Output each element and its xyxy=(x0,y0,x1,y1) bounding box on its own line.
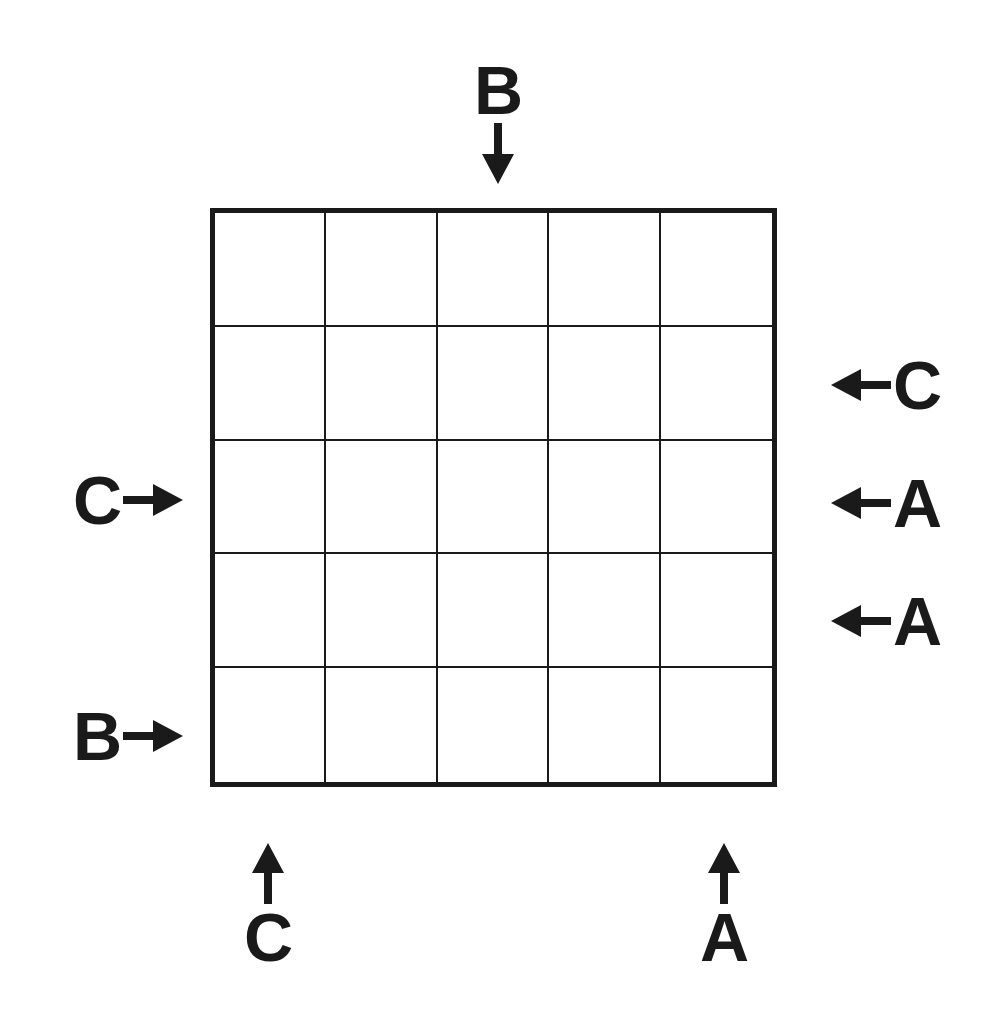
grid-cell[interactable] xyxy=(549,668,660,782)
grid-cell[interactable] xyxy=(215,554,326,668)
grid-cell[interactable] xyxy=(438,327,549,441)
clue-left-row-5: B xyxy=(48,694,208,778)
clue-letter: C xyxy=(73,469,121,532)
clue-letter: C xyxy=(244,906,292,969)
grid-cell[interactable] xyxy=(661,441,772,555)
grid-cell[interactable] xyxy=(661,327,772,441)
clue-bottom-column-1: C xyxy=(222,830,314,980)
arrow-left-icon xyxy=(831,480,891,526)
grid-cell[interactable] xyxy=(326,554,437,668)
grid-cell[interactable] xyxy=(326,213,437,327)
arrow-right-icon xyxy=(123,713,183,759)
arrow-up-icon xyxy=(701,842,747,904)
arrow-down-icon xyxy=(475,123,521,185)
clue-bottom-column-5: A xyxy=(678,830,770,980)
clue-letter: B xyxy=(73,705,121,768)
clue-right-row-3: A xyxy=(806,461,966,545)
clue-right-row-2: C xyxy=(806,343,966,427)
grid-cell[interactable] xyxy=(549,554,660,668)
grid-cell[interactable] xyxy=(215,668,326,782)
clue-right-row-4: A xyxy=(806,579,966,663)
grid-cell[interactable] xyxy=(438,441,549,555)
clue-top-column-3: B xyxy=(452,42,544,202)
grid-cell[interactable] xyxy=(549,327,660,441)
arrow-left-icon xyxy=(831,362,891,408)
arrow-right-icon xyxy=(123,477,183,523)
grid-cell[interactable] xyxy=(549,213,660,327)
grid-cell[interactable] xyxy=(326,441,437,555)
grid-cell[interactable] xyxy=(326,668,437,782)
clue-letter: C xyxy=(893,354,941,417)
grid-cell[interactable] xyxy=(326,327,437,441)
clue-letter: A xyxy=(700,906,748,969)
grid-cell[interactable] xyxy=(215,441,326,555)
arrow-left-icon xyxy=(831,598,891,644)
grid-cell[interactable] xyxy=(549,441,660,555)
grid-cell[interactable] xyxy=(438,668,549,782)
clue-letter: A xyxy=(893,472,941,535)
puzzle-grid xyxy=(210,208,777,787)
clue-left-row-3: C xyxy=(48,458,208,542)
grid-cell[interactable] xyxy=(438,554,549,668)
arrow-up-icon xyxy=(245,842,291,904)
grid-cell[interactable] xyxy=(438,213,549,327)
grid-cell[interactable] xyxy=(661,213,772,327)
clue-letter: B xyxy=(474,59,522,122)
clue-letter: A xyxy=(893,590,941,653)
grid-cell[interactable] xyxy=(215,327,326,441)
grid-cell[interactable] xyxy=(661,554,772,668)
grid-cell[interactable] xyxy=(215,213,326,327)
puzzle-canvas: B C A xyxy=(0,0,997,1030)
grid-cell[interactable] xyxy=(661,668,772,782)
